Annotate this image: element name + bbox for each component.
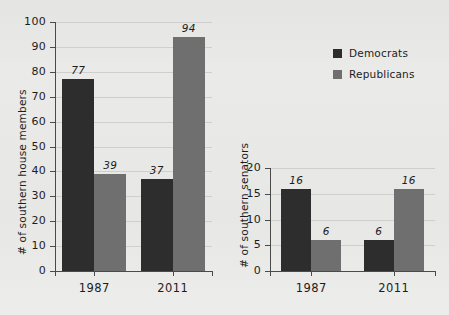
x-axis-category-label: 2011 [143, 281, 203, 295]
y-axis-tick-label: 80 [16, 66, 46, 77]
bar-value-label: 6 [311, 225, 341, 237]
y-axis-tick-label: 20 [16, 215, 46, 226]
x-axis-end-tick [435, 271, 436, 276]
x-axis-end-tick [55, 271, 56, 276]
x-axis-category-label: 1987 [64, 281, 124, 295]
y-axis-tick-label: 30 [16, 190, 46, 201]
y-axis-tick-label: 60 [16, 116, 46, 127]
y-axis-tick-label: 10 [231, 214, 261, 225]
bar-value-label: 16 [394, 174, 424, 186]
x-axis-end-tick [270, 271, 271, 276]
legend-swatch-democrats-icon [333, 49, 342, 58]
y-axis-tick-label: 10 [16, 240, 46, 251]
y-axis-tick-label: 0 [16, 265, 46, 276]
bar-value-label: 16 [281, 174, 311, 186]
bar-value-label: 39 [94, 159, 126, 171]
legend-label-republicans: Republicans [349, 68, 415, 80]
page-bottom-edge [0, 302, 449, 315]
y-axis-tick-label: 20 [231, 162, 261, 173]
x-axis-line [270, 271, 435, 272]
bar-chart-senate-members: # of southern senators 05101520166198761… [232, 0, 449, 300]
y-axis-tick-label: 15 [231, 188, 261, 199]
bar-house-1987-republicans [94, 174, 126, 271]
legend-label-democrats: Democrats [349, 47, 408, 59]
x-axis-tick [394, 271, 395, 276]
y-axis-line [270, 168, 271, 271]
legend-item-democrats: Democrats [333, 47, 415, 59]
y-axis-line [55, 22, 56, 271]
plot-area-house [55, 22, 212, 271]
x-axis-category-label: 2011 [364, 281, 424, 295]
bar-senate-2011-republicans [394, 189, 424, 271]
x-axis-line [55, 271, 212, 272]
x-axis-tick [173, 271, 174, 276]
y-axis-tick-label: 0 [231, 265, 261, 276]
legend: Democrats Republicans [333, 47, 415, 89]
bar-senate-1987-democrats [281, 189, 311, 271]
y-axis-tick-label: 40 [16, 165, 46, 176]
y-axis-tick-label: 70 [16, 91, 46, 102]
x-axis-end-tick [212, 271, 213, 276]
bar-value-label: 77 [62, 64, 94, 76]
bar-value-label: 6 [364, 225, 394, 237]
bar-senate-2011-democrats [364, 240, 394, 271]
y-axis-tick-label: 50 [16, 141, 46, 152]
legend-item-republicans: Republicans [333, 68, 415, 80]
bar-chart-house-members: # of southern house members 010203040506… [0, 0, 232, 300]
bar-house-1987-democrats [62, 79, 94, 271]
bar-value-label: 94 [173, 22, 205, 34]
x-axis-tick [311, 271, 312, 276]
bar-senate-1987-republicans [311, 240, 341, 271]
y-axis-tick-label: 90 [16, 41, 46, 52]
gridline [270, 168, 435, 169]
bar-value-label: 37 [141, 164, 173, 176]
legend-swatch-republicans-icon [333, 70, 342, 79]
bar-house-2011-democrats [141, 179, 173, 271]
x-axis-category-label: 1987 [281, 281, 341, 295]
y-axis-tick-label: 5 [231, 239, 261, 250]
x-axis-tick [94, 271, 95, 276]
bar-house-2011-republicans [173, 37, 205, 271]
y-axis-tick-label: 100 [16, 16, 46, 27]
